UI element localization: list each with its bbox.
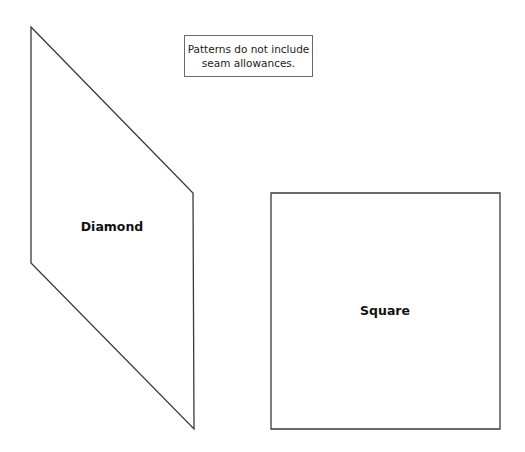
note-line-1: Patterns do not include <box>188 42 310 56</box>
diamond-label: Diamond <box>81 219 144 234</box>
seam-allowance-note: Patterns do not include seam allowances. <box>184 35 313 77</box>
square-label: Square <box>360 303 410 318</box>
note-line-2: seam allowances. <box>202 56 295 70</box>
